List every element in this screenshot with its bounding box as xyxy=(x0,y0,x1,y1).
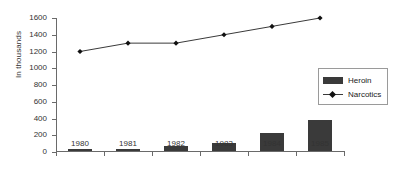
x-axis-label: 1983 xyxy=(200,139,248,148)
bar-swatch-icon xyxy=(323,77,343,84)
y-tick-label: 400 xyxy=(34,114,47,123)
chart-legend: Heroin Narcotics xyxy=(318,68,388,105)
data-point-marker xyxy=(317,15,322,20)
legend-item-heroin[interactable]: Heroin xyxy=(323,73,383,87)
x-axis-label: 1981 xyxy=(104,139,152,148)
x-axis-label: 1982 xyxy=(152,139,200,148)
chart-container: In thousands 020040060080010001200140016… xyxy=(0,0,393,177)
y-tick-label: 800 xyxy=(34,80,47,89)
y-tick-label: 600 xyxy=(34,97,47,106)
narcotics-line xyxy=(80,18,320,52)
data-point-marker xyxy=(173,41,178,46)
data-point-marker xyxy=(77,49,82,54)
legend-label-narcotics: Narcotics xyxy=(348,90,381,99)
legend-item-narcotics[interactable]: Narcotics xyxy=(323,87,383,101)
legend-label-heroin: Heroin xyxy=(348,76,372,85)
data-point-marker xyxy=(221,32,226,37)
data-point-marker xyxy=(125,41,130,46)
y-tick-label: 200 xyxy=(34,130,47,139)
y-tick-label: 1200 xyxy=(29,47,47,56)
y-tick-label: 1600 xyxy=(29,13,47,22)
x-axis-label: 1984 xyxy=(248,139,296,148)
plot-area: 02004006008001000120014001600 xyxy=(56,18,344,152)
data-point-marker xyxy=(269,24,274,29)
line-series-narcotics xyxy=(56,18,344,152)
narcotics-markers xyxy=(77,15,322,54)
line-marker-icon xyxy=(323,91,343,98)
y-tick-label: 1400 xyxy=(29,30,47,39)
y-tick-label: 1000 xyxy=(29,63,47,72)
y-axis-title: In thousands xyxy=(14,5,23,105)
x-tick xyxy=(344,151,345,156)
x-axis-label: 1985 xyxy=(296,139,344,148)
x-axis-label: 1980 xyxy=(56,139,104,148)
y-tick-label: 0 xyxy=(43,147,47,156)
